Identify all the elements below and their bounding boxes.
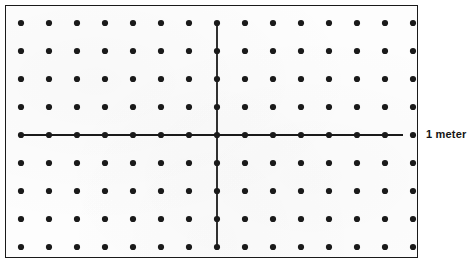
grid-dot	[214, 76, 220, 82]
grid-dot	[18, 188, 24, 194]
grid-dot	[158, 20, 164, 26]
grid-dot	[326, 188, 332, 194]
grid-dot	[326, 104, 332, 110]
grid-dot	[102, 188, 108, 194]
grid-dot	[186, 20, 192, 26]
grid-dot	[130, 188, 136, 194]
grid-dot	[74, 48, 80, 54]
grid-dot	[74, 104, 80, 110]
grid-dot	[214, 160, 220, 166]
grid-dot	[242, 132, 248, 138]
grid-dot	[214, 216, 220, 222]
grid-dot	[46, 76, 52, 82]
scale-label: 1 meter	[426, 129, 467, 140]
grid-dot	[242, 216, 248, 222]
grid-dot	[382, 132, 388, 138]
grid-dot	[410, 20, 416, 26]
grid-dot	[74, 244, 80, 250]
grid-dot	[214, 244, 220, 250]
grid-dot	[18, 104, 24, 110]
grid-dot	[270, 104, 276, 110]
grid-dot	[214, 104, 220, 110]
grid-dot	[158, 76, 164, 82]
grid-dot	[102, 160, 108, 166]
grid-dot	[158, 160, 164, 166]
grid-dot	[410, 132, 416, 138]
grid-dot	[130, 132, 136, 138]
grid-dot	[46, 132, 52, 138]
grid-dot	[186, 160, 192, 166]
grid-dot	[326, 244, 332, 250]
grid-dot	[74, 76, 80, 82]
grid-dot	[326, 48, 332, 54]
grid-dot	[18, 216, 24, 222]
grid-dot	[102, 104, 108, 110]
grid-dot	[242, 76, 248, 82]
grid-dot	[18, 20, 24, 26]
grid-dot	[298, 132, 304, 138]
grid-dot	[410, 188, 416, 194]
grid-dot	[18, 132, 24, 138]
grid-dot	[46, 244, 52, 250]
grid-dot	[354, 244, 360, 250]
grid-dot	[158, 132, 164, 138]
grid-dot	[18, 244, 24, 250]
grid-dot	[130, 244, 136, 250]
grid-dot	[46, 104, 52, 110]
grid-dot	[382, 216, 388, 222]
grid-dot	[270, 216, 276, 222]
grid-dot	[46, 20, 52, 26]
dot-grid-canvas	[0, 0, 474, 269]
grid-dot	[298, 48, 304, 54]
grid-dot	[242, 104, 248, 110]
grid-dot	[158, 216, 164, 222]
grid-dot	[298, 20, 304, 26]
grid-dot	[382, 244, 388, 250]
grid-dot	[102, 244, 108, 250]
grid-dot	[410, 160, 416, 166]
grid-dot	[242, 244, 248, 250]
grid-dot	[74, 132, 80, 138]
grid-dot	[102, 48, 108, 54]
grid-dot	[214, 188, 220, 194]
grid-dot	[186, 104, 192, 110]
grid-dot	[270, 48, 276, 54]
grid-dot	[270, 160, 276, 166]
grid-dot	[18, 76, 24, 82]
grid-dot	[354, 188, 360, 194]
grid-dot	[130, 216, 136, 222]
grid-dot	[46, 160, 52, 166]
grid-dot	[130, 104, 136, 110]
grid-dot	[130, 160, 136, 166]
grid-dot	[46, 216, 52, 222]
grid-dot	[74, 160, 80, 166]
grid-dot	[326, 160, 332, 166]
grid-dot	[18, 160, 24, 166]
dot-grid-scale-diagram: 1 meter	[0, 0, 474, 269]
grid-dot	[102, 76, 108, 82]
grid-dot	[326, 216, 332, 222]
grid-dot	[298, 104, 304, 110]
grid-dot	[242, 188, 248, 194]
grid-dot	[130, 76, 136, 82]
grid-dot	[186, 48, 192, 54]
grid-dot	[186, 216, 192, 222]
grid-dot	[130, 48, 136, 54]
grid-dot	[410, 76, 416, 82]
grid-dot	[186, 244, 192, 250]
grid-dot	[298, 244, 304, 250]
grid-dot	[270, 76, 276, 82]
grid-dot	[354, 132, 360, 138]
grid-dot	[214, 20, 220, 26]
grid-dot	[158, 188, 164, 194]
grid-dot	[382, 104, 388, 110]
grid-dot	[46, 188, 52, 194]
grid-dot	[74, 188, 80, 194]
grid-dot	[382, 48, 388, 54]
grid-dot	[326, 20, 332, 26]
grid-dot	[354, 216, 360, 222]
grid-dot	[74, 20, 80, 26]
grid-dot	[270, 188, 276, 194]
grid-dot	[186, 76, 192, 82]
grid-dot	[410, 104, 416, 110]
